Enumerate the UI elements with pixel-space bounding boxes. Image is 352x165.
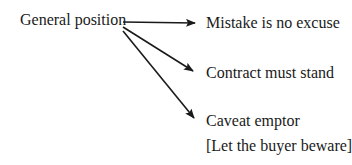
arrow-to-mistake	[123, 22, 195, 23]
target-label-contract: Contract must stand	[206, 65, 334, 81]
target-label-mistake: Mistake is no excuse	[206, 15, 340, 31]
diagram: General position Mistake is no excuse Co…	[0, 0, 352, 165]
arrow-to-caveat	[123, 31, 194, 118]
source-label: General position	[20, 12, 126, 28]
target-label-caveat: Caveat emptor	[206, 113, 300, 129]
target-sublabel-caveat: [Let the buyer beware]	[206, 138, 352, 154]
arrow-to-contract	[123, 27, 193, 71]
